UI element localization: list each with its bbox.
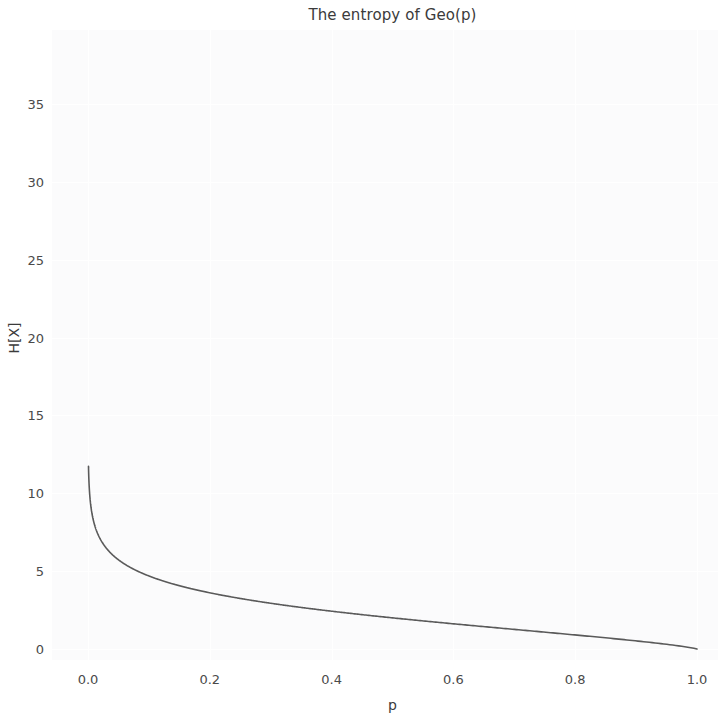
y-tick-label: 15	[4, 408, 44, 423]
x-tick-label: 0.0	[53, 672, 123, 687]
figure-canvas: The entropy of Geo(p) 05101520253035 0.0…	[0, 0, 718, 721]
x-tick-label: 0.4	[297, 672, 367, 687]
x-tick-label: 1.0	[662, 672, 718, 687]
entropy-curve	[52, 30, 718, 660]
y-tick-label: 30	[4, 174, 44, 189]
y-tick-label: 5	[4, 564, 44, 579]
x-tick-label: 0.2	[175, 672, 245, 687]
x-tick-label: 0.8	[540, 672, 610, 687]
y-tick-label: 10	[4, 486, 44, 501]
chart-title: The entropy of Geo(p)	[88, 6, 697, 24]
plot-area	[52, 30, 718, 660]
x-tick-label: 0.6	[418, 672, 488, 687]
y-axis-label: H[X]	[6, 308, 22, 368]
y-tick-label: 0	[4, 642, 44, 657]
y-tick-label: 35	[4, 97, 44, 112]
x-axis-label: p	[88, 697, 697, 713]
y-tick-label: 25	[4, 252, 44, 267]
